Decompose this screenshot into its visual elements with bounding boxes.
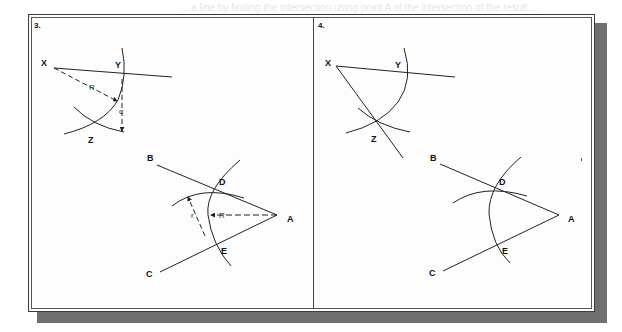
label-radius-r: R — [89, 83, 95, 92]
line-ba — [157, 165, 277, 215]
panel-3-labels: X Y Z R c B D A E C R r — [41, 58, 294, 279]
label-x: X — [41, 58, 47, 68]
label-d: D — [499, 177, 506, 187]
arc-through-z — [358, 108, 410, 132]
panel-3-diagram — [54, 48, 277, 272]
label-c: C — [146, 269, 153, 279]
label-e: E — [221, 246, 227, 256]
panel-4-diagram — [336, 48, 559, 271]
label-c: C — [429, 268, 436, 278]
label-a: A — [287, 214, 294, 224]
label-d: D — [219, 177, 226, 187]
construction-drawing: X Y Z R c B D A E C R r X Y Z B D A E C — [0, 0, 622, 332]
label-z: Z — [371, 134, 377, 144]
label-y: Y — [115, 60, 121, 70]
line-xz — [336, 66, 403, 158]
dimension-r-x — [54, 68, 117, 101]
label-radius-big: R — [219, 211, 225, 220]
label-b: B — [147, 153, 154, 163]
label-x: X — [325, 58, 331, 68]
line-ca — [443, 215, 559, 271]
label-a: A — [568, 214, 575, 224]
line-ca — [160, 215, 277, 272]
label-radius-small: r — [191, 211, 194, 220]
line-ba — [440, 164, 559, 215]
line-xy — [54, 68, 172, 77]
label-y: Y — [395, 60, 401, 70]
stray-mark — [581, 158, 582, 161]
label-b: B — [430, 153, 437, 163]
label-radius-c: c — [119, 107, 123, 116]
label-e: E — [502, 246, 508, 256]
label-z: Z — [88, 135, 94, 145]
